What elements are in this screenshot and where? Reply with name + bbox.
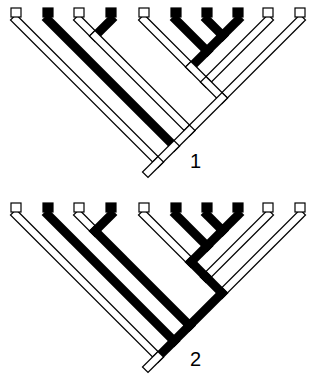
tree-1-tip-8-filled-square [233, 8, 243, 17]
tree-2-branch-tip-1 [16, 215, 158, 357]
tree-1-tip-6-filled-square [171, 8, 181, 17]
tree-2-tip-8-filled-square [233, 203, 243, 212]
tree-2-tip-10-open-square [295, 203, 305, 212]
tree-1-tip-10-open-square [295, 8, 305, 17]
tree-1-tip-2-filled-square [43, 8, 53, 17]
tree-2-branch-tip-6 [176, 215, 207, 246]
tree-2-tip-6-filled-square [171, 203, 181, 212]
tree-2-tip-5-open-square [139, 203, 149, 212]
tree-2-tip-1-open-square [11, 203, 21, 212]
tree-2-branch-root [148, 357, 158, 367]
tree-2-tip-4-filled-square [106, 203, 116, 212]
tree-2-branch-tip-2 [48, 215, 174, 341]
tree-1-label: 1 [190, 150, 201, 173]
tree-2-label: 2 [190, 348, 201, 371]
tree-1-tip-4-filled-square [106, 8, 116, 17]
cladogram-figure [0, 0, 318, 390]
tree-1-branch-root [148, 162, 158, 172]
tree-1-tip-3-open-square [74, 8, 84, 17]
tree-1-branch-clade-5-10 [190, 98, 223, 131]
tree-1-tip-5-open-square [139, 8, 149, 17]
tree-1-branch-tip-6 [176, 20, 207, 51]
tree-2-tip-9-open-square [263, 203, 273, 212]
tree-2-tip-3-open-square [74, 203, 84, 212]
tree-1-branch-tip-1 [16, 20, 158, 162]
tree-2-branch-clade-5-10 [190, 293, 223, 326]
tree-2-tip-7-filled-square [202, 203, 212, 212]
tree-1-tip-7-filled-square [202, 8, 212, 17]
tree-1-branch-tip-2 [48, 20, 174, 146]
tree-2-tip-2-filled-square [43, 203, 53, 212]
tree-1-tip-9-open-square [263, 8, 273, 17]
tree-1-tip-1-open-square [11, 8, 21, 17]
